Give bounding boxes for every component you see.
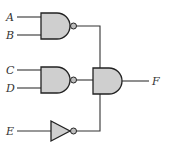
- input-label-e: E: [5, 125, 14, 138]
- output-label-f: F: [151, 75, 160, 88]
- logic-circuit-diagram: A B C D E F: [0, 0, 169, 151]
- and-gate: [93, 68, 122, 94]
- nand-gate-1-body: [41, 13, 70, 39]
- input-label-a: A: [5, 11, 14, 24]
- wire-g1-to-and: [77, 26, 101, 74]
- not-gate: [51, 121, 77, 141]
- input-label-d: D: [5, 82, 15, 95]
- not-gate-bubble: [71, 128, 77, 134]
- input-label-b: B: [5, 29, 14, 42]
- nand-gate-2: [41, 67, 77, 93]
- not-gate-body: [51, 121, 70, 141]
- nand-gate-1: [41, 13, 77, 39]
- nand-gate-2-bubble: [71, 77, 77, 83]
- input-label-c: C: [6, 64, 15, 77]
- and-gate-body: [93, 68, 122, 94]
- nand-gate-2-body: [41, 67, 70, 93]
- nand-gate-1-bubble: [71, 23, 77, 29]
